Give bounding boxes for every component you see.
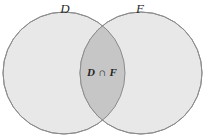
venn-diagram-canvas: D F D ∩ F [0,0,206,137]
set-label-d: D [59,1,70,16]
venn-diagram-figure: D F D ∩ F [0,0,206,137]
intersection-label: D ∩ F [86,66,118,78]
set-label-f: F [135,1,145,16]
